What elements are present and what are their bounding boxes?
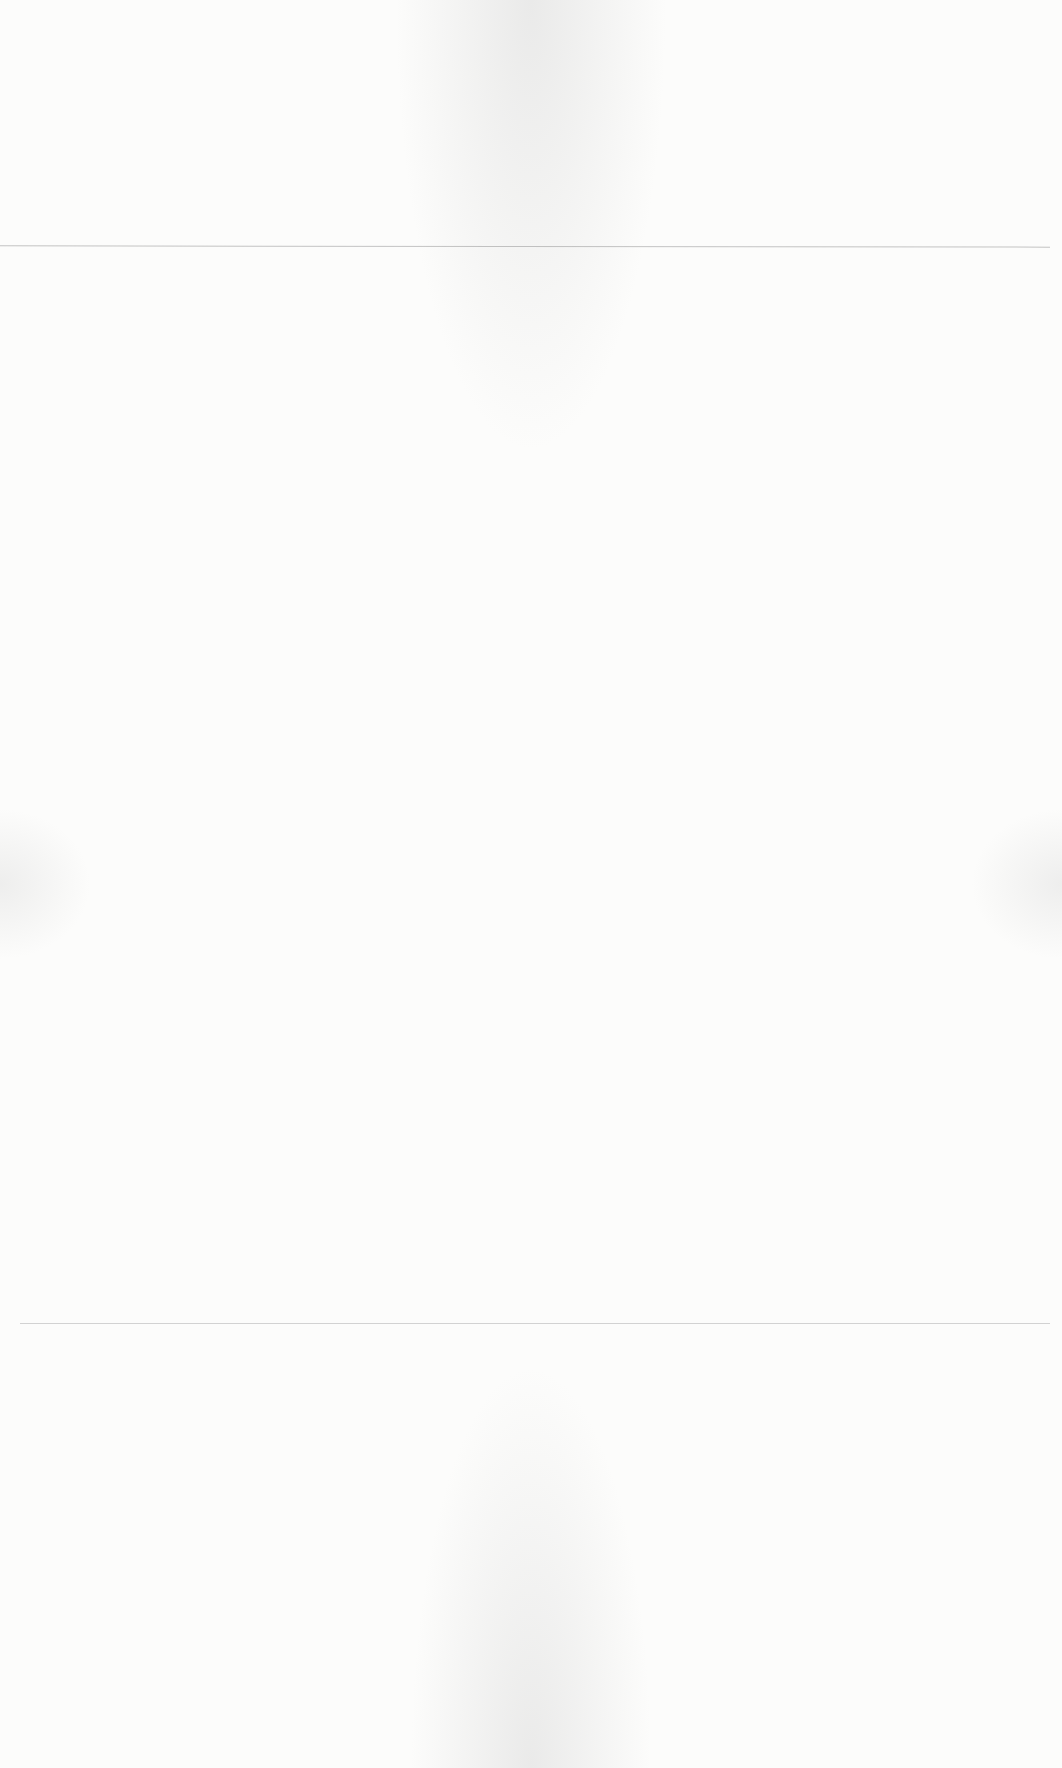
scanned-page — [0, 0, 1062, 1768]
horizontal-rule-bottom — [20, 1323, 1050, 1324]
horizontal-rule-top — [0, 245, 1050, 247]
